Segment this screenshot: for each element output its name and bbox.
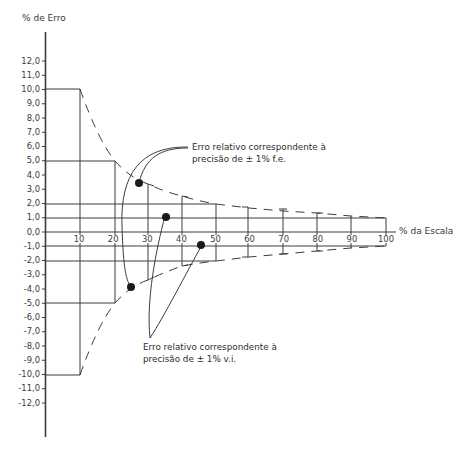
y-axis-title: % de Erro [22,14,66,23]
y-tick-label: 8,0 [4,114,40,122]
x-tick-label: 30 [141,235,154,243]
x-tick-label: 70 [277,235,290,243]
annotation-fe-line2: precisão de ± 1% f.e. [192,153,326,165]
annotation-fe: Erro relativo correspondente à precisão … [192,141,326,165]
y-tick-label: -12,0 [4,399,40,407]
error-chart [0,0,465,453]
x-tick-label: 10 [73,235,86,243]
marker-vi-upper [162,213,170,221]
y-tick-label: -7,0 [4,327,40,335]
y-tick-label: -8,0 [4,342,40,350]
y-tick-label: 9,0 [4,99,40,107]
y-tick-label: 1,0 [4,213,40,221]
y-tick-label: 4,0 [4,171,40,179]
y-tick-label: -6,0 [4,313,40,321]
y-tick-label: 11,0 [4,71,40,79]
y-tick-label: 0,0 [4,228,40,236]
y-tick-label: 10,0 [4,85,40,93]
x-tick-label: 80 [311,235,324,243]
bracket-30-top [148,184,154,186]
marker-fe-lower [127,283,135,291]
y-tick-label: 3,0 [4,185,40,193]
y-tick-label: -9,0 [4,356,40,364]
y-tick-label: -2,0 [4,256,40,264]
x-tick-label: 40 [175,235,188,243]
y-tick-label: -10,0 [4,370,40,378]
y-tick-label: -1,0 [4,242,40,250]
y-tick-label: -4,0 [4,285,40,293]
fe-leader-upper [139,148,188,183]
x-axis-title: % da Escala [399,227,453,236]
annotation-vi-line1: Erro relativo correspondente à [143,341,277,353]
y-tick-label: -5,0 [4,299,40,307]
y-tick-label: 2,0 [4,199,40,207]
y-tick-label: 5,0 [4,156,40,164]
fe-leader-lower [122,147,188,287]
y-tick-label: 6,0 [4,142,40,150]
x-tick-label: 60 [243,235,256,243]
annotation-fe-line1: Erro relativo correspondente à [192,141,326,153]
annotation-vi: Erro relativo correspondente à precisão … [143,341,277,365]
y-tick-label: -3,0 [4,270,40,278]
y-tick-label: 12,0 [4,57,40,65]
marker-fe-upper [135,179,143,187]
y-tick-label: 7,0 [4,128,40,136]
x-tick-label: 90 [346,235,359,243]
vi-leader-2 [150,245,202,338]
marker-vi-lower [197,241,205,249]
x-tick-label: 50 [209,235,222,243]
x-tick-label: 100 [377,235,395,243]
y-tick-label: -11,0 [4,384,40,392]
annotation-vi-line2: precisão de ± 1% v.i. [143,353,277,365]
bracket-30-bot [148,277,154,280]
x-tick-label: 20 [107,235,120,243]
